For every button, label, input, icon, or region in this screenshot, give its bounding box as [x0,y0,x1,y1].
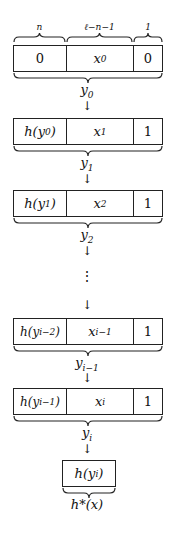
cell-suffix: 1 [134,389,162,414]
cell-x: x1 [67,119,134,144]
cell-suffix: 0 [134,46,162,71]
final-label: h*(x) [0,497,174,512]
cell-x: x0 [67,46,134,71]
cell-x: xi−1 [67,319,134,344]
arrow-down-icon: ↓ [0,371,174,385]
cell-x: xi [67,389,134,414]
block-row-0: 0 x0 0 [13,45,163,72]
arrow-down-icon: ↓ [0,298,174,312]
cell-x: x2 [67,191,134,216]
block-row-1: h(y0) x1 1 [13,118,163,145]
brace-label-1: 1 [133,22,163,32]
brace-label-n: n [13,22,66,32]
top-brace-icon [13,33,66,43]
cell-suffix: 1 [134,191,162,216]
arrow-down-icon: ↓ [0,99,174,113]
cell-prefix: h(y0) [14,119,67,144]
block-row-2: h(y1) x2 1 [13,190,163,217]
block-row-i: h(yi−1) xi 1 [13,388,163,415]
brace-label-y0: y0 [0,82,174,100]
ellipsis-icon: ⋮ [0,268,174,284]
arrow-down-icon: ↓ [0,244,174,258]
arrow-down-icon: ↓ [0,442,174,456]
cell-prefix: 0 [14,46,67,71]
final-hash-box: h(yi) [62,460,116,487]
cell-suffix: 1 [134,319,162,344]
brace-label-y1: y1 [0,155,174,173]
brace-label-yi: yi [0,425,174,443]
top-brace-icon [133,33,163,43]
brace-label-mid: ℓ−n−1 [66,22,133,32]
top-brace-icon [66,33,133,43]
cell-prefix: h(y1) [14,191,67,216]
block-row-i-1: h(yi−2) xi−1 1 [13,318,163,345]
cell-prefix: h(yi−2) [14,319,67,344]
cell-prefix: h(yi−1) [14,389,67,414]
arrow-down-icon: ↓ [0,172,174,186]
brace-label-y2: y2 [0,227,174,245]
cell-suffix: 1 [134,119,162,144]
brace-label-yi-1: yi−1 [0,355,174,373]
